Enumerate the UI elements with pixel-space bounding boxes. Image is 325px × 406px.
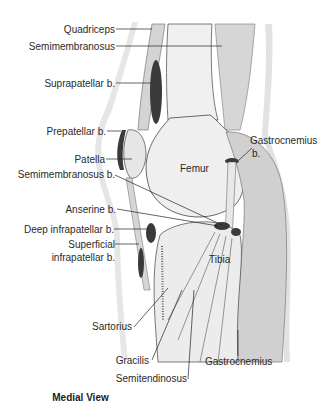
label-quadriceps: Quadriceps bbox=[64, 24, 115, 35]
knee-diagram bbox=[0, 0, 325, 406]
suprapatellar-bursa bbox=[150, 60, 162, 124]
tibia bbox=[154, 222, 241, 362]
label-sartorius: Sartorius bbox=[92, 321, 132, 332]
label-superficial-infrapatellar-bursa-line1: Superficial bbox=[68, 239, 115, 250]
patella bbox=[124, 130, 146, 178]
semimembranosus-muscle bbox=[215, 24, 255, 130]
deep-infrapatellar-bursa bbox=[146, 223, 156, 243]
label-semimembranosus-bursa: Semimembranosus b. bbox=[18, 169, 115, 180]
superficial-infrapatellar-bursa bbox=[138, 248, 144, 278]
label-deep-infrapatellar-bursa: Deep infrapatellar b. bbox=[24, 224, 114, 235]
label-anserine-bursa: Anserine b. bbox=[65, 204, 116, 215]
anserine-bursa bbox=[231, 228, 241, 236]
label-semitendinosus: Semitendinosus bbox=[116, 373, 187, 384]
label-superficial-infrapatellar-bursa-line2: infrapatellar b. bbox=[52, 252, 115, 263]
label-tibia: Tibia bbox=[209, 254, 230, 265]
femur-shaft bbox=[167, 24, 219, 120]
label-suprapatellar-bursa: Suprapatellar b. bbox=[44, 78, 115, 89]
label-gastrocnemius-bursa-line2: b. bbox=[252, 148, 260, 159]
label-gastrocnemius-bursa-line1: Gastrocnemius bbox=[250, 135, 317, 146]
label-gastrocnemius: Gastrocnemius bbox=[205, 356, 272, 367]
label-femur: Femur bbox=[180, 163, 209, 174]
diagram-title: Medial View bbox=[0, 392, 325, 403]
label-patella: Patella bbox=[74, 154, 105, 165]
label-semimembranosus: Semimembranosus bbox=[29, 41, 115, 52]
label-gracilis: Gracilis bbox=[116, 355, 149, 366]
label-prepatellar-bursa: Prepatellar b. bbox=[47, 126, 106, 137]
